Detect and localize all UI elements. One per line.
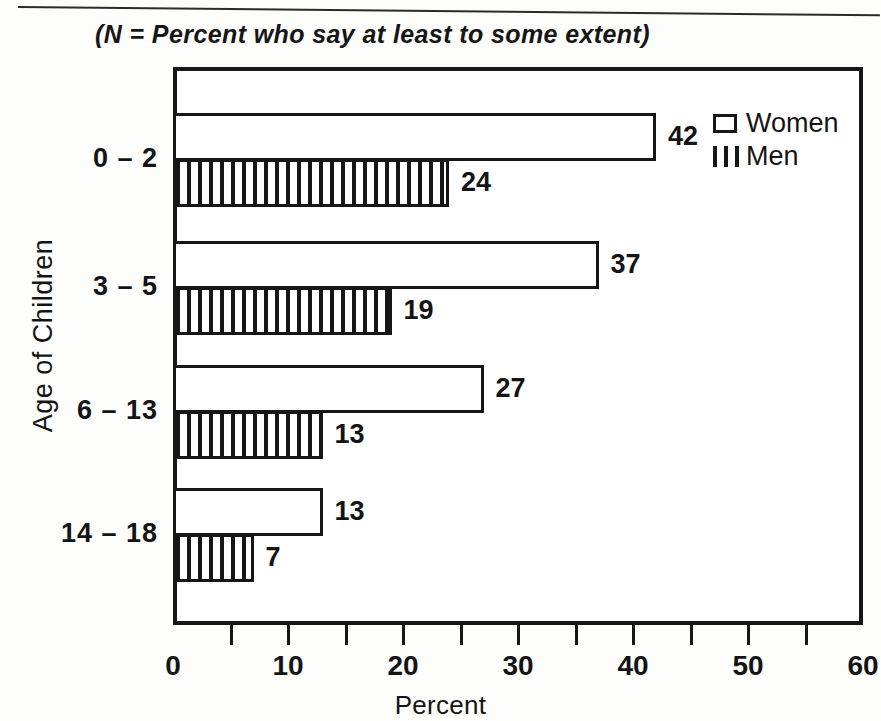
- legend-swatch-men-icon: [713, 146, 740, 167]
- legend: Women Men: [713, 107, 839, 173]
- bar-men-1: [173, 287, 392, 335]
- x-tick-5: [230, 625, 233, 645]
- bar-value-women-2: 27: [496, 375, 526, 402]
- legend-item-men: Men: [713, 140, 839, 173]
- chart-subtitle: (N = Percent who say at least to some ex…: [95, 20, 650, 49]
- x-axis-title: Percent: [0, 690, 881, 721]
- x-tick-30: [517, 625, 520, 645]
- x-tick-label-50: 50: [732, 650, 763, 682]
- bar-value-men-3: 7: [266, 544, 281, 571]
- bar-value-women-0: 42: [668, 123, 698, 150]
- x-tick-label-20: 20: [387, 650, 418, 682]
- bar-women-0: [173, 113, 656, 161]
- bar-value-men-1: 19: [404, 297, 434, 324]
- x-tick-20: [402, 625, 405, 645]
- y-axis-title: Age of Children: [28, 206, 59, 466]
- bar-men-2: [173, 411, 323, 459]
- legend-label-women: Women: [746, 108, 839, 139]
- y-axis-label-2: 6 – 13: [77, 395, 158, 426]
- y-axis-category-labels: 0 – 2 3 – 5 6 – 13 14 – 18: [0, 0, 158, 721]
- x-tick-label-10: 10: [272, 650, 303, 682]
- x-tick-label-40: 40: [617, 650, 648, 682]
- y-axis-label-0: 0 – 2: [93, 143, 158, 174]
- legend-item-women: Women: [713, 107, 839, 140]
- chart-page: (N = Percent who say at least to some ex…: [0, 0, 881, 721]
- bar-women-2: [173, 365, 484, 413]
- x-tick-55: [805, 625, 808, 645]
- x-tick-10: [287, 625, 290, 645]
- x-tick-label-60: 60: [847, 650, 878, 682]
- x-tick-40: [632, 625, 635, 645]
- x-tick-label-0: 0: [165, 650, 181, 682]
- bar-value-men-2: 13: [335, 421, 365, 448]
- x-tick-25: [460, 625, 463, 645]
- bar-value-women-1: 37: [611, 251, 641, 278]
- bar-women-3: [173, 488, 323, 536]
- x-tick-35: [575, 625, 578, 645]
- x-tick-50: [747, 625, 750, 645]
- bar-men-3: [173, 534, 254, 582]
- bar-value-women-3: 13: [335, 498, 365, 525]
- x-tick-label-30: 30: [502, 650, 533, 682]
- legend-swatch-women-icon: [713, 114, 737, 133]
- legend-label-men: Men: [746, 141, 799, 172]
- bar-men-0: [173, 159, 449, 207]
- x-tick-15: [345, 625, 348, 645]
- y-axis-label-3: 14 – 18: [61, 518, 158, 549]
- x-tick-45: [690, 625, 693, 645]
- bar-value-men-0: 24: [461, 169, 491, 196]
- y-axis-label-1: 3 – 5: [93, 271, 158, 302]
- bar-women-1: [173, 241, 599, 289]
